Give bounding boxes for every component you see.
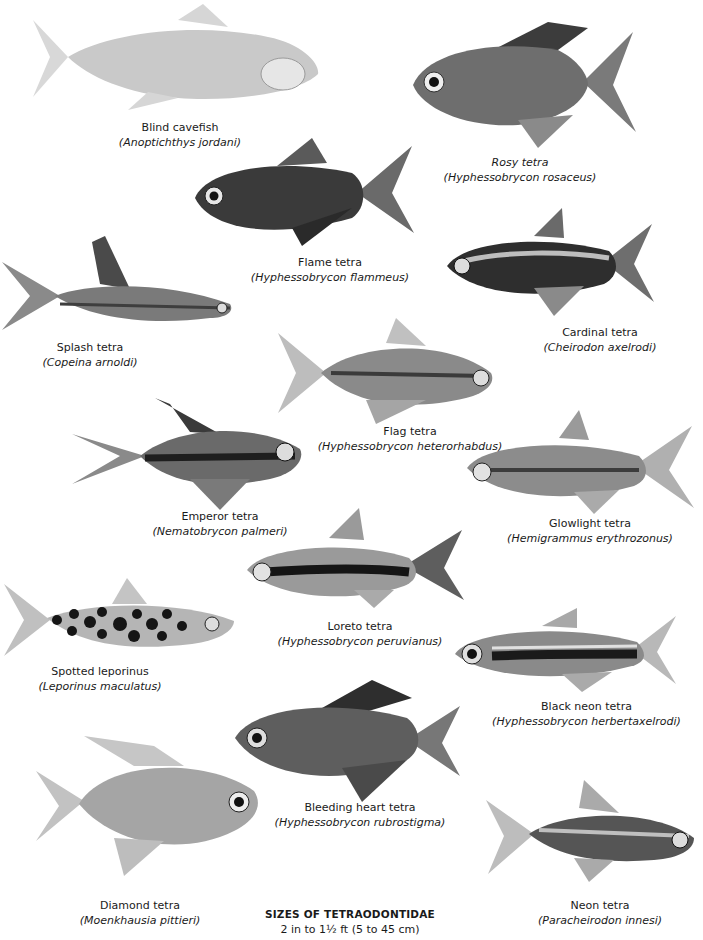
- caption-glowlight-tetra: Glowlight tetra (Hemigrammus erythrozonu…: [490, 516, 690, 546]
- caption-bleeding-heart-tetra: Bleeding heart tetra (Hyphessobrycon rub…: [260, 800, 460, 830]
- black-neon-tetra-illustration: [452, 604, 680, 692]
- caption-black-neon-tetra: Black neon tetra (Hyphessobrycon herbert…: [470, 699, 703, 729]
- blind-cavefish-illustration: [28, 2, 320, 110]
- scientific-name: (Moenkhausia pittieri): [50, 913, 230, 928]
- caption-rosy-tetra: Rosy tetra (Hyphessobrycon rosaceus): [420, 155, 620, 185]
- common-name: Spotted leporinus: [0, 664, 200, 679]
- common-name: Cardinal tetra: [500, 325, 700, 340]
- rosy-tetra-illustration: [408, 20, 638, 150]
- common-name: Neon tetra: [510, 898, 690, 913]
- caption-splash-tetra: Splash tetra (Copeina arnoldi): [10, 340, 170, 370]
- scientific-name: (Cheirodon axelrodi): [500, 340, 700, 355]
- scientific-name: (Hyphessobrycon rubrostigma): [260, 815, 460, 830]
- scientific-name: (Hyphessobrycon herbertaxelrodi): [470, 714, 703, 729]
- caption-flame-tetra: Flame tetra (Hyphessobrycon flammeus): [220, 255, 440, 285]
- caption-emperor-tetra: Emperor tetra (Nematobrycon palmeri): [120, 509, 320, 539]
- scientific-name: (Hyphessobrycon flammeus): [220, 270, 440, 285]
- scientific-name: (Copeina arnoldi): [10, 355, 170, 370]
- diamond-tetra-illustration: [34, 726, 262, 886]
- caption-diamond-tetra: Diamond tetra (Moenkhausia pittieri): [50, 898, 230, 928]
- common-name: Emperor tetra: [120, 509, 320, 524]
- scientific-name: (Anoptichthys jordani): [80, 135, 280, 150]
- scientific-name: (Leporinus maculatus): [0, 679, 200, 694]
- common-name: Diamond tetra: [50, 898, 230, 913]
- common-name: Rosy tetra: [420, 155, 620, 170]
- splash-tetra-illustration: [0, 234, 240, 338]
- caption-spotted-leporinus: Spotted leporinus (Leporinus maculatus): [0, 664, 200, 694]
- common-name: Loreto tetra: [260, 619, 460, 634]
- common-name: Flag tetra: [300, 424, 520, 439]
- bleeding-heart-tetra-illustration: [232, 678, 464, 802]
- sizes-footer: SIZES OF TETRAODONTIDAE 2 in to 1½ ft (5…: [240, 907, 460, 937]
- flame-tetra-illustration: [192, 138, 416, 246]
- common-name: Splash tetra: [10, 340, 170, 355]
- caption-loreto-tetra: Loreto tetra (Hyphessobrycon peruvianus): [260, 619, 460, 649]
- sizes-title: SIZES OF TETRAODONTIDAE: [240, 907, 460, 922]
- common-name: Blind cavefish: [80, 120, 280, 135]
- common-name: Black neon tetra: [470, 699, 703, 714]
- common-name: Flame tetra: [220, 255, 440, 270]
- scientific-name: (Nematobrycon palmeri): [120, 524, 320, 539]
- neon-tetra-illustration: [484, 778, 698, 882]
- scientific-name: (Hyphessobrycon rosaceus): [420, 170, 620, 185]
- caption-flag-tetra: Flag tetra (Hyphessobrycon heterorhabdus…: [300, 424, 520, 454]
- caption-neon-tetra: Neon tetra (Paracheirodon innesi): [510, 898, 690, 928]
- sizes-range: 2 in to 1½ ft (5 to 45 cm): [240, 922, 460, 937]
- common-name: Glowlight tetra: [490, 516, 690, 531]
- scientific-name: (Hemigrammus erythrozonus): [490, 531, 690, 546]
- scientific-name: (Hyphessobrycon heterorhabdus): [300, 439, 520, 454]
- emperor-tetra-illustration: [70, 394, 306, 510]
- spotted-leporinus-illustration: [2, 576, 238, 660]
- scientific-name: (Paracheirodon innesi): [510, 913, 690, 928]
- caption-blind-cavefish: Blind cavefish (Anoptichthys jordani): [80, 120, 280, 150]
- cardinal-tetra-illustration: [444, 206, 656, 316]
- common-name: Bleeding heart tetra: [260, 800, 460, 815]
- caption-cardinal-tetra: Cardinal tetra (Cheirodon axelrodi): [500, 325, 700, 355]
- scientific-name: (Hyphessobrycon peruvianus): [260, 634, 460, 649]
